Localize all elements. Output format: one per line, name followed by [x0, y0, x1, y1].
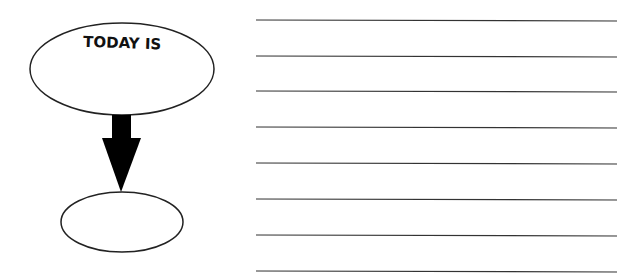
worksheet-canvas: TODAY IS	[0, 0, 625, 278]
top-oval-label: TODAY IS	[83, 33, 162, 54]
writing-line-6	[256, 199, 617, 200]
writing-line-3	[256, 91, 617, 92]
writing-lines	[256, 20, 617, 272]
writing-line-7	[256, 235, 617, 236]
bottom-oval	[61, 192, 183, 252]
writing-line-2	[256, 56, 617, 57]
writing-line-4	[256, 127, 617, 128]
writing-line-1	[256, 20, 617, 21]
writing-line-8	[256, 271, 617, 272]
down-arrow-icon	[102, 115, 141, 192]
writing-line-5	[256, 163, 617, 164]
